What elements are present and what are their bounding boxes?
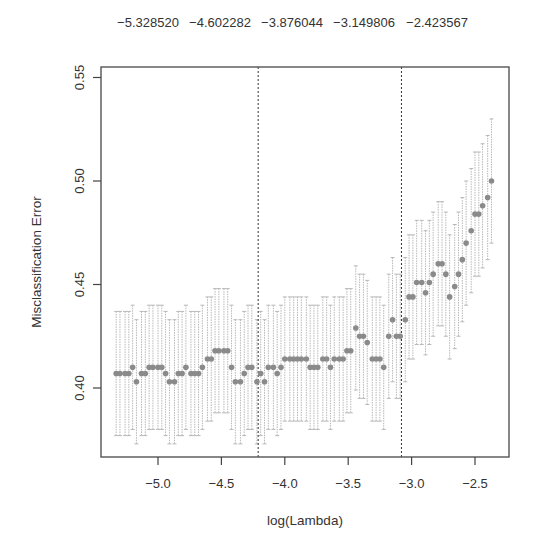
data-point <box>208 356 214 362</box>
x-tick-label: −5.0 <box>145 476 171 491</box>
data-point <box>258 371 264 377</box>
data-point <box>254 379 260 385</box>
x-tick-label: −2.5 <box>462 476 488 491</box>
data-point <box>364 340 370 346</box>
top-axis-labels: −5.328520−4.602282−3.876044−3.149806−2.4… <box>117 15 468 30</box>
x-tick-label: −4.0 <box>272 476 298 491</box>
data-point <box>225 348 231 354</box>
data-point <box>390 317 396 323</box>
data-point <box>315 365 321 371</box>
data-point <box>196 371 202 377</box>
data-point <box>402 317 408 323</box>
y-tick-label: 0.50 <box>72 168 87 193</box>
data-point <box>200 365 206 371</box>
data-point <box>348 348 354 354</box>
data-point <box>238 379 244 385</box>
data-point <box>439 261 445 267</box>
cv-error-chart: −5.0−4.5−4.0−3.5−3.0−2.5 0.400.450.500.5… <box>0 0 545 559</box>
data-point <box>167 379 173 385</box>
data-point <box>298 356 304 362</box>
data-point <box>229 365 235 371</box>
data-point <box>262 379 268 385</box>
data-point <box>423 290 429 296</box>
data-point <box>468 228 474 234</box>
data-point <box>340 356 346 362</box>
top-axis-label: −2.423567 <box>406 15 468 30</box>
data-point <box>304 356 310 362</box>
y-tick-label: 0.55 <box>72 65 87 90</box>
data-point <box>183 365 189 371</box>
data-point <box>117 371 123 377</box>
data-point <box>476 211 482 217</box>
data-point <box>126 371 132 377</box>
data-point <box>233 379 239 385</box>
data-point <box>249 365 255 371</box>
top-axis-label: −3.149806 <box>333 15 395 30</box>
data-point <box>447 294 453 300</box>
data-point <box>179 371 185 377</box>
data-point <box>430 271 436 277</box>
data-point <box>489 178 495 184</box>
data-point <box>143 371 149 377</box>
data-point <box>282 356 288 362</box>
data-point <box>353 325 359 331</box>
data-point <box>130 365 136 371</box>
data-point <box>381 365 387 371</box>
y-tick-label: 0.45 <box>72 272 87 297</box>
data-point <box>150 365 156 371</box>
data-point <box>397 333 403 339</box>
data-point <box>414 280 420 286</box>
data-point <box>480 203 486 209</box>
top-axis-label: −3.876044 <box>261 15 323 30</box>
top-axis-label: −4.602282 <box>189 15 251 30</box>
data-point <box>159 365 165 371</box>
x-tick-label: −3.0 <box>399 476 425 491</box>
y-axis-title: Misclassification Error <box>29 196 44 328</box>
data-point <box>386 333 392 339</box>
data-point <box>361 333 367 339</box>
data-point <box>463 240 469 246</box>
data-point <box>278 365 284 371</box>
data-point <box>443 271 449 277</box>
data-point <box>216 348 222 354</box>
data-point <box>419 280 425 286</box>
data-point <box>427 280 433 286</box>
data-point <box>324 356 330 362</box>
data-point <box>271 365 277 371</box>
data-point <box>452 284 458 290</box>
x-axis-title: log(Lambda) <box>267 513 343 528</box>
data-point <box>377 356 383 362</box>
data-point <box>410 294 416 300</box>
data-point <box>274 371 280 377</box>
data-point <box>172 379 178 385</box>
top-axis-label: −5.328520 <box>117 15 179 30</box>
y-tick-label: 0.40 <box>72 375 87 400</box>
x-tick-label: −4.5 <box>209 476 235 491</box>
data-point <box>134 379 140 385</box>
data-point <box>163 371 169 377</box>
x-tick-label: −3.5 <box>335 476 361 491</box>
data-point <box>331 356 337 362</box>
data-point <box>266 365 272 371</box>
data-point <box>241 371 247 377</box>
data-point <box>456 271 462 277</box>
data-point <box>485 195 491 201</box>
data-point <box>328 365 334 371</box>
data-point <box>460 257 466 263</box>
